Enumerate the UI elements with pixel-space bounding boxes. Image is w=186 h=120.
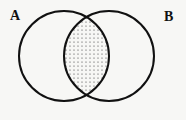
- venn-diagram: A B: [0, 0, 186, 120]
- venn-svg: A B: [0, 0, 186, 120]
- label-a: A: [10, 8, 21, 23]
- label-b: B: [164, 9, 173, 24]
